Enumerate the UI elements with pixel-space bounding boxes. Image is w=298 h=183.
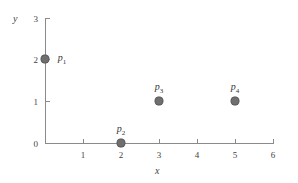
y-axis-line: [45, 18, 46, 144]
x-tick-label-2: 2: [119, 151, 124, 160]
x-tick-3: [159, 139, 160, 144]
data-point-p2: [117, 139, 126, 148]
y-tick-1: [45, 101, 50, 102]
x-tick-label-3: 3: [157, 151, 162, 160]
scatter-plot: 3 2 1 0 y 1 2 3 4 5 6 x p1 p2 p3 p4: [0, 0, 298, 183]
data-point-label-p1: p1: [58, 53, 67, 66]
y-tick-label-2: 2: [24, 56, 38, 65]
x-tick-6: [273, 139, 274, 144]
data-point-label-p4: p4: [231, 82, 240, 95]
p4-subscript: 4: [236, 87, 240, 95]
y-tick-label-1: 1: [24, 98, 38, 107]
x-tick-5: [235, 139, 236, 144]
p2-subscript: 2: [122, 129, 126, 137]
y-tick-3: [45, 18, 50, 19]
data-point-p4: [231, 97, 240, 106]
data-point-p3: [155, 97, 164, 106]
x-tick-label-5: 5: [233, 151, 238, 160]
x-tick-label-1: 1: [81, 151, 86, 160]
y-tick-label-3: 3: [24, 15, 38, 24]
x-tick-1: [83, 139, 84, 144]
p3-subscript: 3: [160, 87, 164, 95]
data-point-label-p2: p2: [117, 124, 126, 137]
data-point-p1: [41, 55, 50, 64]
x-tick-4: [197, 139, 198, 144]
x-tick-label-4: 4: [195, 151, 200, 160]
x-axis-label: x: [155, 166, 159, 176]
y-axis-label: y: [13, 14, 17, 24]
y-tick-label-0: 0: [24, 140, 38, 149]
x-tick-label-6: 6: [271, 151, 276, 160]
data-point-label-p3: p3: [155, 82, 164, 95]
p1-subscript: 1: [63, 58, 67, 66]
